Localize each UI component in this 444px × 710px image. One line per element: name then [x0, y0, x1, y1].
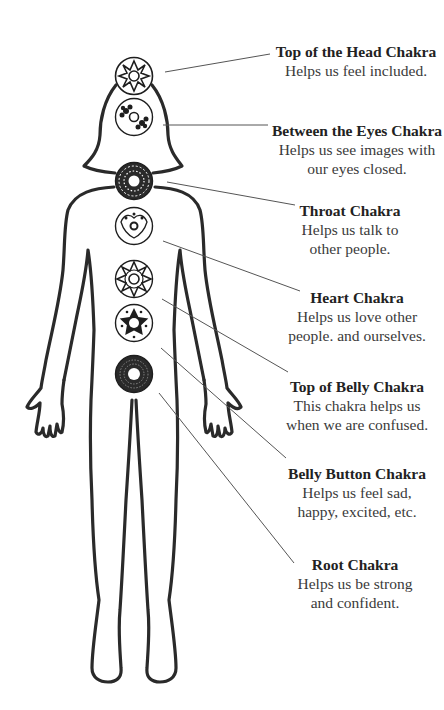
sacral-chakra-icon [116, 305, 153, 342]
label-title: Belly Button Chakra [284, 464, 430, 483]
heart-chakra-icon [116, 208, 153, 245]
label-desc: other people. [290, 239, 410, 258]
label-third-eye: Between the Eyes Chakra Helps us see ima… [270, 121, 444, 178]
label-throat: Throat Chakra Helps us talk to other peo… [290, 201, 410, 258]
label-desc: Helps us see images with [270, 140, 444, 159]
label-desc: and confident. [290, 593, 420, 612]
label-desc: Helps us talk to [290, 220, 410, 239]
label-root: Root Chakra Helps us be strong and confi… [290, 555, 420, 612]
label-title: Heart Chakra [282, 288, 432, 307]
label-title: Top of Belly Chakra [282, 377, 432, 396]
label-sacral: Belly Button Chakra Helps us feel sad, h… [284, 464, 430, 521]
left-arm-outer [27, 187, 114, 437]
label-desc: Helps us love other [282, 307, 432, 326]
label-desc: Helps us feel included. [268, 61, 444, 80]
label-crown: Top of the Head Chakra Helps us feel inc… [268, 42, 444, 80]
throat-chakra-icon [116, 163, 153, 200]
head-outline-right [152, 85, 182, 173]
root-chakra-icon [116, 356, 153, 393]
leader-line-solar-plexus [162, 299, 288, 372]
label-title: Root Chakra [290, 555, 420, 574]
right-arm-outer [155, 187, 241, 437]
label-desc: people. and ourselves. [282, 326, 432, 345]
chakra-symbols [116, 58, 153, 393]
third-eye-chakra-icon [116, 99, 153, 136]
leader-line-crown [165, 54, 270, 72]
label-title: Throat Chakra [290, 201, 410, 220]
label-title: Between the Eyes Chakra [270, 121, 444, 140]
head-outline-left [84, 85, 116, 173]
label-desc: happy, excited, etc. [284, 502, 430, 521]
label-desc: This chakra helps us [282, 396, 432, 415]
solar-plexus-chakra-icon [116, 261, 153, 298]
label-desc: our eyes closed. [270, 159, 444, 178]
label-solar-plexus: Top of Belly Chakra This chakra helps us… [282, 377, 432, 434]
label-desc: when we are confused. [282, 415, 432, 434]
label-desc: Helps us feel sad, [284, 483, 430, 502]
crown-chakra-icon [116, 58, 153, 95]
label-title: Top of the Head Chakra [268, 42, 444, 61]
label-desc: Helps us be strong [290, 574, 420, 593]
leader-line-root [159, 393, 294, 563]
label-heart: Heart Chakra Helps us love other people.… [282, 288, 432, 345]
